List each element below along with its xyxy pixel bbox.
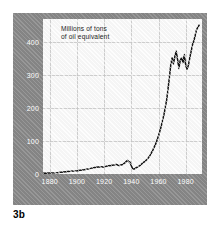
x-tick-1880: 1880	[37, 178, 63, 185]
x-tick-1900: 1900	[64, 178, 90, 185]
x-tick-1940: 1940	[118, 178, 144, 185]
plot-area	[43, 19, 202, 174]
chart-panel: 0100200300400 188019001920194019601980 M…	[13, 13, 207, 205]
y-tick-100: 100	[13, 138, 39, 145]
y-tick-0: 0	[13, 171, 39, 178]
y-tick-200: 200	[13, 105, 39, 112]
x-tick-1920: 1920	[91, 178, 117, 185]
chart-canvas	[43, 19, 202, 174]
y-tick-400: 400	[13, 39, 39, 46]
y-axis-title: Millions of tons of oil equivalent	[61, 25, 109, 41]
figure-caption: 3b	[13, 209, 25, 220]
x-tick-1960: 1960	[146, 178, 172, 185]
x-tick-1980: 1980	[173, 178, 199, 185]
figure-3b: 0100200300400 188019001920194019601980 M…	[0, 0, 220, 229]
y-tick-300: 300	[13, 72, 39, 79]
